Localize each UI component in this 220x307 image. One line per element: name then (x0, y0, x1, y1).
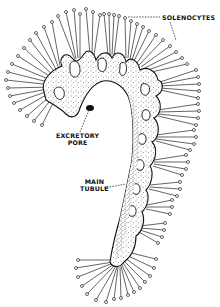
leader-lines (80, 17, 176, 188)
label-main-tubule-line2: TUBULE (80, 185, 109, 192)
label-excretory-pore-line2: PORE (56, 139, 99, 146)
solenocyte-bundles (5, 8, 201, 304)
excretory-pore (86, 105, 94, 111)
protonephridium-diagram (0, 0, 220, 307)
label-solenocytes: SOLENOCYTES (162, 14, 215, 21)
label-main-tubule-line1: MAIN (80, 178, 109, 185)
excretory-pore-leader (80, 110, 89, 132)
solenocytes-leader-2 (170, 22, 176, 40)
label-main-tubule: MAIN TUBULE (80, 178, 109, 192)
label-excretory-pore: EXCRETORY PORE (56, 132, 99, 146)
label-excretory-pore-line1: EXCRETORY (56, 132, 99, 139)
